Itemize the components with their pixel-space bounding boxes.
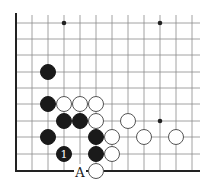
black-stone-icon	[41, 65, 56, 80]
white-stone-icon	[89, 97, 104, 112]
black-stone-icon	[41, 130, 56, 145]
white-stone-icon	[105, 147, 120, 162]
black-stone	[41, 97, 56, 112]
black-stone-icon	[41, 97, 56, 112]
black-stone	[73, 114, 88, 129]
white-stone-icon	[89, 114, 104, 129]
black-stone-icon	[73, 114, 88, 129]
white-stone-icon	[105, 130, 120, 145]
black-stone-icon	[57, 114, 72, 129]
black-stone	[57, 114, 72, 129]
white-stone-icon	[121, 114, 136, 129]
black-stone-icon	[89, 130, 104, 145]
white-stone	[121, 114, 136, 129]
black-stone	[41, 65, 56, 80]
white-stone	[89, 97, 104, 112]
point-labels: A	[74, 164, 86, 180]
white-stone	[57, 97, 72, 112]
go-board: A 1	[0, 0, 217, 189]
star-point-icon	[158, 119, 163, 124]
white-stone-icon	[89, 164, 104, 179]
white-stone-icon	[137, 130, 152, 145]
white-stone	[89, 114, 104, 129]
black-stone	[89, 147, 104, 162]
white-stone	[169, 130, 184, 145]
black-stone-icon	[89, 147, 104, 162]
white-stone-icon	[57, 97, 72, 112]
white-stone-icon	[73, 97, 88, 112]
white-stone	[73, 97, 88, 112]
black-stone: 1	[57, 147, 72, 162]
white-stone	[137, 130, 152, 145]
black-stone	[41, 130, 56, 145]
white-stone	[105, 130, 120, 145]
black-stone	[89, 130, 104, 145]
white-stone	[89, 164, 104, 179]
white-stone	[105, 147, 120, 162]
point-label-a: A	[74, 165, 85, 180]
star-point-icon	[62, 21, 67, 26]
white-stone-icon	[169, 130, 184, 145]
star-point-icon	[158, 21, 163, 26]
move-number-label: 1	[61, 148, 68, 161]
